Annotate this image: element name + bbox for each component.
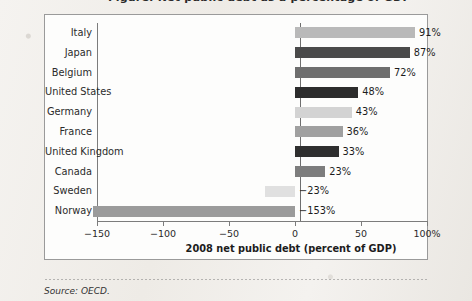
- bar: [93, 206, 295, 217]
- bar: [295, 87, 358, 98]
- bar-value-label: 43%: [356, 102, 378, 122]
- category-label: Norway: [45, 201, 97, 221]
- bar: [295, 107, 352, 118]
- bar-value-label: 33%: [343, 142, 365, 162]
- x-tick-label: 100%: [413, 228, 440, 239]
- x-tick-mark: [295, 221, 296, 226]
- bar: [295, 126, 343, 137]
- bar-row: United States48%: [45, 82, 429, 102]
- bar-row: Japan87%: [45, 43, 429, 63]
- bar-row: Germany43%: [45, 102, 429, 122]
- bar-row: Belgium72%: [45, 63, 429, 83]
- bar-row: United Kingdom33%: [45, 142, 429, 162]
- bar-row: Canada23%: [45, 162, 429, 182]
- bar-row: Sweden−23%: [45, 181, 429, 201]
- x-tick-label: 50: [355, 228, 367, 239]
- bar-value-label: −23%: [299, 181, 329, 201]
- bar-value-label: 87%: [414, 43, 436, 63]
- cropped-header-label: Figure: Net public debt as a percentage …: [108, 0, 411, 4]
- figure-frame: Italy91%Japan87%Belgium72%United States4…: [44, 14, 428, 260]
- bar: [295, 47, 410, 58]
- bar-value-label: −153%: [299, 201, 335, 221]
- x-tick-mark: [361, 221, 362, 226]
- dotted-divider: [44, 279, 428, 280]
- x-tick-mark: [427, 221, 428, 226]
- bar-chart-plot: Italy91%Japan87%Belgium72%United States4…: [45, 15, 429, 261]
- cropped-header-text: Figure: Net public debt as a percentage …: [0, 0, 472, 14]
- x-tick-label: −50: [219, 228, 239, 239]
- category-label: Belgium: [45, 63, 97, 83]
- bar: [265, 186, 295, 197]
- bar: [295, 67, 390, 78]
- category-label: Sweden: [45, 181, 97, 201]
- category-label: United States: [45, 82, 97, 102]
- category-label: France: [45, 122, 97, 142]
- bar-row: Italy91%: [45, 23, 429, 43]
- x-tick-mark: [97, 221, 98, 226]
- bar: [295, 146, 339, 157]
- x-axis-title: 2008 net public debt (percent of GDP): [45, 243, 429, 254]
- bar-value-label: 48%: [362, 82, 384, 102]
- category-label: United Kingdom: [45, 142, 97, 162]
- source-note: Source: OECD.: [44, 286, 110, 296]
- category-label: Japan: [45, 43, 97, 63]
- category-label: Germany: [45, 102, 97, 122]
- bar-value-label: 36%: [347, 122, 369, 142]
- bar-value-label: 23%: [329, 162, 351, 182]
- x-tick-mark: [163, 221, 164, 226]
- category-label: Italy: [45, 23, 97, 43]
- bar: [295, 166, 325, 177]
- bar-rows: Italy91%Japan87%Belgium72%United States4…: [45, 23, 429, 221]
- x-tick-label: 0: [292, 228, 298, 239]
- bar-value-label: 91%: [419, 23, 441, 43]
- bar: [295, 27, 415, 38]
- value-axis-line: [97, 221, 427, 222]
- x-tick-label: −150: [84, 228, 110, 239]
- bar-value-label: 72%: [394, 63, 416, 83]
- bar-row: Norway−153%: [45, 201, 429, 221]
- bar-row: France36%: [45, 122, 429, 142]
- x-tick-mark: [229, 221, 230, 226]
- x-tick-label: −100: [150, 228, 176, 239]
- category-label: Canada: [45, 162, 97, 182]
